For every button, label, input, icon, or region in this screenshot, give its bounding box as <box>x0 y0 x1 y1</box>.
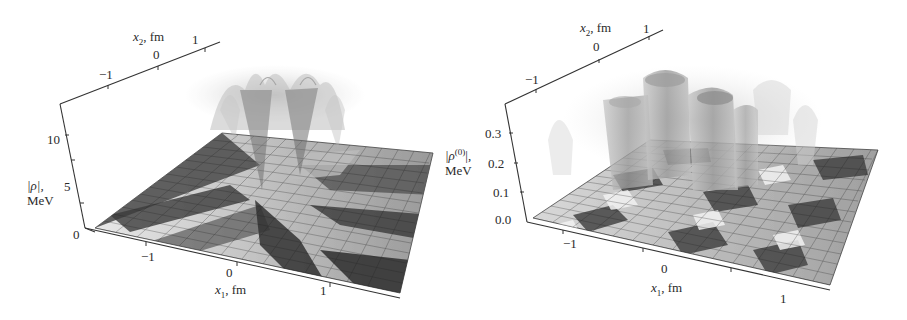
z-tick-0.3: 0.3 <box>485 127 501 141</box>
x1-tick-1: 1 <box>320 284 327 298</box>
z-tick-5: 5 <box>64 180 71 194</box>
x1-tick-0: 0 <box>661 262 668 276</box>
x1-tick-0: 0 <box>226 266 233 280</box>
left-panel-surface-plot: x2, fm −1 0 1 10 5 0 |ρ|, MeV −1 0 1 x1,… <box>0 0 453 320</box>
right-plot-graphics <box>453 0 907 320</box>
x1-axis-label: x1, fm <box>215 283 246 302</box>
x2-tick-1: 1 <box>192 33 199 47</box>
x2-tick-1: 1 <box>643 22 650 36</box>
z-tick-0.2: 0.2 <box>488 157 504 171</box>
z-tick-0: 0 <box>73 228 80 242</box>
x2-axis-label: x2, fm <box>580 21 611 40</box>
x2-tick-neg1: −1 <box>525 73 539 87</box>
z-tick-10: 10 <box>47 133 60 147</box>
x1-tick-1: 1 <box>780 292 787 306</box>
right-panel-surface-plot: x2, fm −1 0 1 0.3 0.2 0.1 0.0 |ρ(0)|, Me… <box>453 0 907 320</box>
z-axis-label: |ρ|, MeV <box>27 178 54 208</box>
z-axis-line <box>60 104 85 228</box>
x2-axis-label: x2, fm <box>133 30 164 49</box>
x2-tick-0: 0 <box>153 48 160 62</box>
x1-tick-neg1: −1 <box>141 250 155 264</box>
z-tick-0.1: 0.1 <box>493 186 509 200</box>
x1-tick-neg1: −1 <box>563 237 577 251</box>
z-tick-0.0: 0.0 <box>495 213 511 227</box>
x1-axis-label: x1, fm <box>651 281 682 300</box>
x2-tick-neg1: −1 <box>99 68 113 82</box>
z-axis-label: |ρ(0)|, MeV <box>445 145 472 178</box>
x2-tick-0: 0 <box>593 40 600 54</box>
